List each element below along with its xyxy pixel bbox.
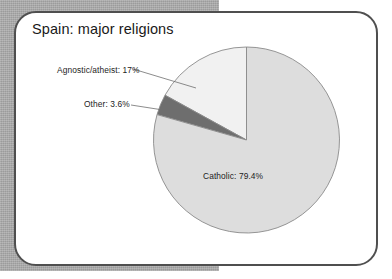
slice-label-catholic: Catholic: 79.4% (203, 171, 263, 181)
chart-card (14, 11, 378, 266)
slice-label-other: Other: 3.6% (84, 99, 130, 109)
chart-title: Spain: major religions (32, 21, 174, 37)
background-bottom-strip (0, 271, 392, 279)
slice-label-agnostic: Agnostic/atheist: 17% (57, 65, 140, 75)
